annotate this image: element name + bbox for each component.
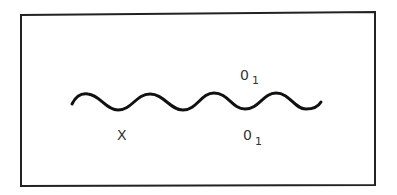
upper-label-base: 0 (240, 67, 249, 83)
lower-label: 0 1 (243, 127, 262, 148)
upper-label: 0 1 (240, 67, 259, 87)
lower-label-subscript: 1 (255, 135, 262, 148)
wavy-line (72, 93, 321, 110)
diagram: X 0 1 0 1 (0, 0, 397, 195)
upper-label-subscript: 1 (252, 74, 259, 87)
lower-label-base: 0 (243, 127, 252, 143)
x-label: X (117, 127, 127, 143)
